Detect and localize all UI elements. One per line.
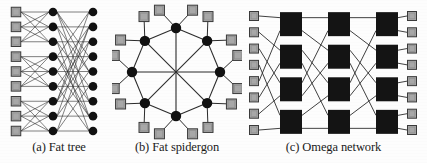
fat-tree-switch-level-2 [89,127,98,136]
omega-switch [280,77,302,101]
fat-tree-switch-level-2 [89,37,98,46]
omega-stage-link [302,63,328,115]
omega-switch [328,77,350,101]
omega-stage-link [350,63,376,96]
omega-output-link [398,63,407,65]
omega-network-diagram [240,0,427,140]
omega-switch [280,45,302,69]
omega-nodes [250,12,417,135]
fat-tree-switch-level-2 [89,23,98,32]
spidergon-node [171,23,181,33]
omega-switch [376,110,398,134]
omega-stage-link [302,31,328,83]
fat-tree-switch-level-2 [89,82,98,91]
fat-tree-switch-level-1 [49,127,58,136]
spidergon-node [140,36,150,46]
omega-input-link [259,49,280,83]
fat-tree-switch-level-1 [49,67,58,76]
fat-tree-switch-level-1 [49,37,58,46]
omega-output-link [398,31,407,33]
omega-switch [280,110,302,134]
omega-output-link [398,16,407,18]
fat-tree-switch-level-1 [49,8,58,17]
fat-tree-link-stage2 [57,27,89,101]
omega-output-link [398,81,407,83]
panel-fat-spidergon: (b) Fat spidergon [112,0,242,163]
omega-stage-link [350,31,376,51]
fat-tree-switch-level-1 [49,82,58,91]
fat-tree-switch-level-1 [49,112,58,121]
omega-input-link [259,32,280,50]
spidergon-node [202,98,212,108]
network-topologies-figure: (a) Fat tree (b) Fat spidergon (c) Omega… [0,0,427,163]
omega-stage-link [302,63,328,96]
omega-stage-link [302,96,328,116]
fat-tree-switch-level-1 [49,52,58,61]
omega-stage-link [350,31,376,83]
omega-output-link [398,114,407,116]
fat-tree-switch-level-2 [89,97,98,106]
fat-tree-switch-level-1 [49,23,58,32]
omega-switch [376,45,398,69]
spidergon-node [140,98,150,108]
omega-stage-link [350,50,376,83]
spidergon-node [202,36,212,46]
omega-output-link [398,49,407,51]
omega-switch [376,12,398,36]
omega-input-link [259,31,280,82]
omega-output-link [398,96,407,98]
omega-switch [328,110,350,134]
spidergon-node [171,111,181,121]
fat-tree-switch-level-2 [89,112,98,121]
omega-input-link [259,96,280,114]
omega-switch [280,12,302,36]
caption-fat-spidergon: (b) Fat spidergon [112,140,242,155]
fat-tree-switch-level-1 [49,97,58,106]
omega-input-link [259,63,280,97]
omega-stage-link [350,63,376,115]
fat-tree-switch-level-2 [89,8,98,17]
spidergon-node [215,67,225,77]
omega-stage-link [350,96,376,116]
spidergon-node [127,67,137,77]
omega-switch [328,45,350,69]
fat-tree-diagram [0,0,118,140]
fat-tree-switch-level-2 [89,67,98,76]
omega-output-link [398,128,407,130]
omega-switch [328,12,350,36]
omega-switch [376,77,398,101]
panel-omega-network: (c) Omega network [240,0,427,163]
caption-omega-network: (c) Omega network [240,140,427,155]
caption-fat-tree: (a) Fat tree [0,140,118,155]
omega-input-link [259,16,280,18]
omega-stage-link [302,31,328,51]
panel-fat-tree: (a) Fat tree [0,0,118,163]
fat-tree-switch-level-2 [89,52,98,61]
omega-stage-link [302,50,328,83]
fat-spidergon-diagram [112,0,242,140]
omega-input-link [259,128,280,130]
